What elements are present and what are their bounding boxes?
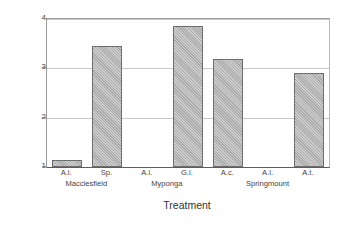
y-tick-label: 2 — [10, 112, 46, 121]
y-tick-label: 4 — [10, 13, 46, 22]
plot-area — [46, 18, 330, 168]
y-tick-label: 3 — [10, 62, 46, 71]
x-axis-group-labels: MacclesfieldMypongaSpringmount — [46, 179, 328, 193]
bar — [52, 160, 82, 167]
x-tick-label: A.l. — [127, 168, 167, 177]
x-axis-title: Treatment — [46, 199, 328, 211]
bar — [294, 73, 324, 167]
x-tick-label: A.c. — [207, 168, 247, 177]
group-label: Macclesfield — [46, 179, 127, 188]
bar — [213, 59, 243, 167]
y-axis-ticks: 1234 — [0, 0, 46, 225]
y-tick-label: 1 — [10, 161, 46, 170]
x-tick-label: A.l. — [46, 168, 86, 177]
group-label: Springmount — [207, 179, 328, 188]
gridline — [47, 19, 329, 20]
x-tick-label: Sp. — [86, 168, 126, 177]
group-label: Myponga — [127, 179, 208, 188]
x-tick-label: G.l. — [167, 168, 207, 177]
x-tick-label: A.t. — [288, 168, 328, 177]
x-tick-label: A.l. — [247, 168, 287, 177]
bar — [92, 46, 122, 167]
bar — [173, 26, 203, 167]
bar-chart-figure: Dung Left on Surface (Mean Rank) 1234 A.… — [0, 0, 349, 225]
